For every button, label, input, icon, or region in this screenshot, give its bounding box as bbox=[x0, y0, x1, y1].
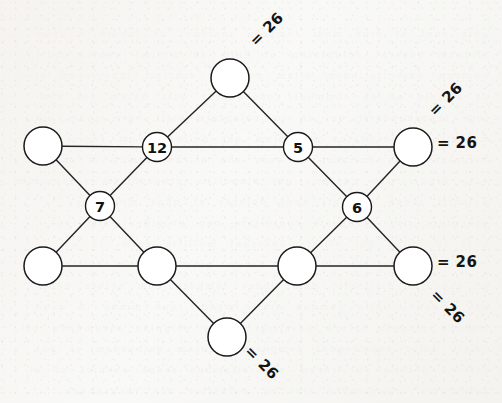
graph-edge bbox=[170, 280, 213, 324]
graph-edge bbox=[110, 157, 147, 195]
node-circle[interactable] bbox=[278, 247, 316, 285]
node-value-label: 12 bbox=[147, 140, 167, 156]
graph-edge bbox=[56, 217, 90, 253]
graph-edge bbox=[110, 217, 144, 253]
graph-node-left-lower[interactable] bbox=[24, 247, 62, 285]
graph-edge bbox=[168, 91, 217, 137]
graph-node-inner-left[interactable]: 7 bbox=[86, 192, 115, 221]
graph-edge bbox=[311, 217, 347, 253]
node-value-label: 6 bbox=[352, 200, 362, 216]
graph-edge bbox=[308, 157, 347, 196]
graph-node-right-upper[interactable] bbox=[394, 128, 432, 166]
node-circle[interactable] bbox=[138, 247, 176, 285]
sum-upper-right-diagonal: = 26 bbox=[425, 79, 466, 120]
node-value-label: 7 bbox=[95, 199, 105, 215]
sum-lower-right-horizontal: = 26 bbox=[437, 253, 477, 271]
node-circle[interactable] bbox=[394, 247, 432, 285]
sum-top: = 26 bbox=[246, 9, 287, 50]
sum-lower-right-diagonal: = 26 bbox=[427, 286, 468, 327]
node-circle[interactable] bbox=[24, 127, 62, 165]
graph-edge bbox=[240, 280, 283, 324]
magic-hexagram-diagram: 12576 = 26= 26= 26= 26= 26= 26 bbox=[0, 0, 502, 403]
sum-bottom: = 26 bbox=[241, 342, 282, 383]
graph-node-inner-lower-right[interactable] bbox=[278, 247, 316, 285]
node-layer: 12576 bbox=[24, 59, 432, 356]
graph-edge bbox=[62, 146, 143, 147]
sum-upper-right-horizontal: = 26 bbox=[437, 134, 477, 152]
node-circle[interactable] bbox=[24, 247, 62, 285]
graph-edge bbox=[243, 92, 287, 137]
graph-node-inner-lower-left[interactable] bbox=[138, 247, 176, 285]
figure-canvas: quia sunt et eius modi tempora incidunt … bbox=[0, 0, 502, 403]
node-value-label: 5 bbox=[293, 140, 303, 156]
graph-node-top[interactable] bbox=[211, 59, 249, 97]
graph-node-inner-upper-right[interactable]: 5 bbox=[284, 133, 313, 162]
node-circle[interactable] bbox=[211, 59, 249, 97]
graph-edge bbox=[367, 161, 400, 197]
graph-edge bbox=[56, 160, 90, 196]
graph-node-right-lower[interactable] bbox=[394, 247, 432, 285]
graph-node-bottom[interactable] bbox=[208, 318, 246, 356]
node-circle[interactable] bbox=[394, 128, 432, 166]
node-circle[interactable] bbox=[208, 318, 246, 356]
graph-edge bbox=[367, 218, 400, 253]
graph-node-inner-right[interactable]: 6 bbox=[343, 193, 372, 222]
graph-node-left-upper[interactable] bbox=[24, 127, 62, 165]
graph-node-inner-upper-left[interactable]: 12 bbox=[143, 133, 172, 162]
